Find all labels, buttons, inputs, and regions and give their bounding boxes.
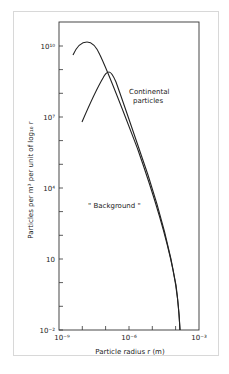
continental-curve bbox=[73, 42, 180, 330]
chart: 10⁻² 10 10⁴ 10⁷ 10¹⁰ 10⁻⁹ 10⁻⁶ 10⁻³ Part… bbox=[0, 0, 229, 374]
y-axis-label: Particles per m³ per unit of log₁₀ r bbox=[27, 121, 35, 239]
y-tick-label: 10⁴ bbox=[43, 185, 55, 193]
y-tick-label: 10⁷ bbox=[43, 114, 55, 122]
y-tick-label: 10 bbox=[46, 256, 55, 264]
x-tick-label: 10⁻⁹ bbox=[54, 334, 70, 342]
continental-annotation-line2: particles bbox=[133, 97, 163, 105]
x-tick-label: 10⁻³ bbox=[191, 334, 207, 342]
background-annotation: " Background " bbox=[88, 202, 141, 210]
y-tick-label: 10¹⁰ bbox=[40, 43, 55, 51]
background-curve bbox=[82, 72, 180, 330]
x-axis-label: Particle radius r (m) bbox=[95, 348, 165, 356]
y-tick-label: 10⁻² bbox=[40, 327, 56, 335]
continental-annotation-line1: Continental bbox=[129, 88, 170, 96]
plot-area bbox=[59, 22, 199, 330]
x-ticks bbox=[82, 326, 175, 330]
y-ticks bbox=[59, 46, 63, 330]
x-tick-label: 10⁻⁶ bbox=[121, 334, 137, 342]
